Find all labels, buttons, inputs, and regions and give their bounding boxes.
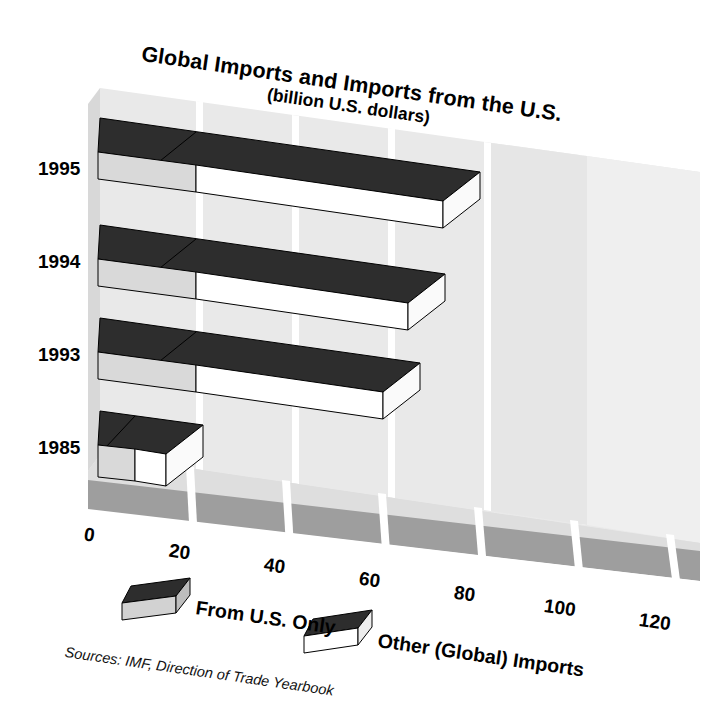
bar-1985-seg-us [98, 445, 135, 481]
xtick-80: 80 [453, 582, 477, 607]
ytick-1985: 1985 [38, 437, 80, 459]
xtick-60: 60 [358, 568, 382, 593]
xtick-20: 20 [168, 540, 192, 565]
wall-band-right [587, 156, 700, 543]
ytick-1995: 1995 [38, 158, 80, 180]
legend-swatch-from-us[interactable] [122, 578, 190, 620]
chart-root: Global Imports and Imports from the U.S.… [0, 0, 703, 713]
ytick-1994: 1994 [38, 251, 80, 273]
wall-band-5 [491, 143, 587, 525]
xtick-120: 120 [638, 609, 673, 635]
ytick-1993: 1993 [38, 344, 80, 366]
bar-1985-seg-other [135, 449, 166, 486]
xtick-100: 100 [543, 595, 578, 621]
chart-scene [0, 0, 703, 713]
xtick-40: 40 [263, 554, 287, 579]
